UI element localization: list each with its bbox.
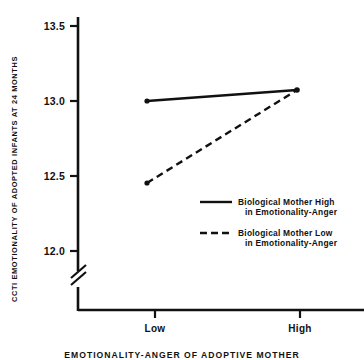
series-line-bio-mother-low: [147, 90, 297, 183]
legend-label-1-line1: Biological Mother High: [238, 197, 335, 207]
legend-label-2-line1: Biological Mother Low: [238, 228, 333, 238]
x-tick-label-low: Low: [145, 323, 166, 334]
y-tick-label-13-0: 13.0: [44, 95, 65, 107]
y-tick-label-13-5: 13.5: [44, 20, 65, 32]
data-point-low-low-x: [144, 180, 149, 185]
y-tick-label-12-0: 12.0: [44, 245, 65, 257]
chart-legend: Biological Mother High in Emotionality-A…: [200, 197, 338, 248]
y-tick-label-12-5: 12.5: [44, 170, 65, 182]
x-tick-label-high: High: [288, 323, 311, 334]
y-axis-label-container: CCTI EMOTIONALITY OF ADOPTED INFANTS AT …: [0, 0, 28, 357]
legend-label-1-line2: in Emotionality-Anger: [245, 207, 338, 217]
data-point-high-low-x: [144, 98, 149, 103]
axis-break-mark-lower: [71, 272, 86, 285]
series-line-bio-mother-high: [147, 90, 297, 101]
y-axis-title: CCTI EMOTIONALITY OF ADOPTED INFANTS AT …: [10, 55, 19, 301]
legend-label-2-line2: in Emotionality-Anger: [245, 238, 338, 248]
x-axis-title: EMOTIONALITY-ANGER OF ADOPTIVE MOTHER: [0, 350, 364, 360]
